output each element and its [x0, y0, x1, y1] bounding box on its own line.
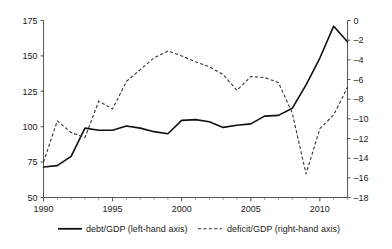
- y2-axis-tick-label: –14: [354, 153, 369, 163]
- series-line-deficit-gdp: [44, 51, 348, 174]
- chart-legend: debt/GDP (left-hand axis)deficit/GDP (ri…: [58, 224, 340, 234]
- y-axis-tick-label: 75: [27, 157, 37, 167]
- y2-axis-tick-label: –16: [354, 173, 369, 183]
- line-chart: 19901995200020052010 5075100125150175 –1…: [0, 0, 392, 249]
- chart-container: 19901995200020052010 5075100125150175 –1…: [0, 0, 392, 249]
- x-axis-ticks: 19901995200020052010: [33, 198, 347, 214]
- y2-axis-tick-label: –8: [354, 94, 364, 104]
- chart-series-group: [44, 26, 348, 174]
- y-axis-tick-label: 100: [22, 122, 37, 132]
- legend-label-deficit-gdp: deficit/GDP (right-hand axis): [227, 224, 340, 234]
- y2-axis-tick-label: –4: [354, 55, 364, 65]
- y-axis-tick-label: 175: [22, 16, 37, 26]
- series-line-debt-gdp: [44, 26, 348, 167]
- y2-axis-tick-label: –12: [354, 134, 369, 144]
- y2-axis-tick-label: –18: [354, 193, 369, 203]
- y2-axis-tick-label: 0: [354, 16, 359, 26]
- y2-axis-tick-label: –10: [354, 114, 369, 124]
- x-axis-tick-label: 2005: [241, 204, 261, 214]
- chart-axes: [44, 21, 348, 198]
- y2-axis-tick-label: –6: [354, 75, 364, 85]
- x-axis-tick-label: 2000: [172, 204, 192, 214]
- x-axis-tick-label: 1990: [33, 204, 53, 214]
- legend-label-debt-gdp: debt/GDP (left-hand axis): [86, 224, 187, 234]
- y-axis-left-ticks: 5075100125150175: [22, 16, 43, 203]
- y-axis-tick-label: 125: [22, 87, 37, 97]
- y2-axis-tick-label: –2: [354, 35, 364, 45]
- x-axis-tick-label: 2010: [310, 204, 330, 214]
- y-axis-tick-label: 150: [22, 51, 37, 61]
- y-axis-tick-label: 50: [27, 193, 37, 203]
- y-axis-right-ticks: –18–16–14–12–10–8–6–4–20: [348, 16, 369, 203]
- x-axis-tick-label: 1995: [103, 204, 123, 214]
- axis-left-and-bottom: [44, 21, 348, 198]
